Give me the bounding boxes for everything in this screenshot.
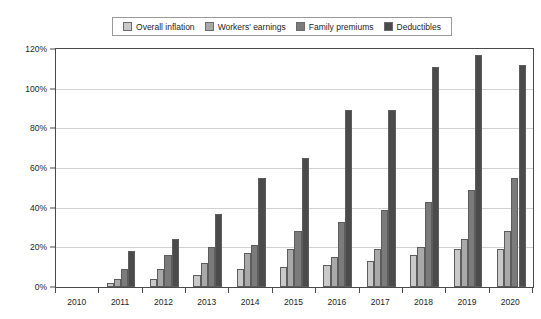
x-axis-tick-mark [142, 288, 143, 293]
legend-item-label: Family premiums [309, 22, 374, 32]
bar[interactable] [511, 178, 518, 287]
bar-group [497, 49, 526, 287]
x-axis-tick-label: 2018 [414, 297, 433, 307]
legend-item-label: Workers' earnings [218, 22, 286, 32]
bar[interactable] [497, 249, 504, 287]
y-axis-tick-label: 40% [30, 203, 47, 212]
bar[interactable] [374, 249, 381, 287]
bar[interactable] [164, 255, 171, 287]
bar[interactable] [425, 202, 432, 287]
bar[interactable] [280, 267, 287, 287]
bar[interactable] [215, 214, 222, 287]
bar-group [367, 49, 396, 287]
bar-group [63, 49, 92, 287]
bar[interactable] [107, 283, 114, 287]
bar[interactable] [345, 110, 352, 287]
bar[interactable] [302, 158, 309, 287]
bar[interactable] [258, 178, 265, 287]
x-axis-tick-mark [185, 288, 186, 293]
legend-item-label: Deductibles [397, 22, 441, 32]
bar[interactable] [172, 239, 179, 287]
y-axis-tick-label: 80% [30, 124, 47, 133]
bar-group [280, 49, 309, 287]
x-axis: 2010201120122013201420152016201720182019… [55, 288, 534, 316]
x-axis-tick-mark [315, 288, 316, 293]
bar[interactable] [201, 263, 208, 287]
bar[interactable] [504, 231, 511, 287]
x-axis-tick-label: 2013 [197, 297, 216, 307]
bar[interactable] [367, 261, 374, 287]
bar[interactable] [208, 247, 215, 287]
x-axis-tick-mark [228, 288, 229, 293]
legend-swatch-icon [205, 22, 214, 31]
x-axis-tick-label: 2017 [371, 297, 390, 307]
bar[interactable] [381, 210, 388, 287]
legend-item[interactable]: Deductibles [384, 22, 441, 32]
legend-swatch-icon [296, 22, 305, 31]
x-axis-tick-label: 2016 [327, 297, 346, 307]
bar[interactable] [388, 110, 395, 287]
bar-group [410, 49, 439, 287]
bar[interactable] [410, 255, 417, 287]
bar[interactable] [468, 190, 475, 287]
legend-item[interactable]: Overall inflation [123, 22, 195, 32]
x-axis-tick-label: 2015 [284, 297, 303, 307]
x-axis-tick-mark [55, 288, 56, 293]
bar[interactable] [454, 249, 461, 287]
legend-item[interactable]: Workers' earnings [205, 22, 286, 32]
bar[interactable] [244, 253, 251, 287]
bar[interactable] [331, 257, 338, 287]
x-axis-tick-mark [445, 288, 446, 293]
legend-item[interactable]: Family premiums [296, 22, 374, 32]
bar[interactable] [193, 275, 200, 287]
bar-group [323, 49, 352, 287]
bar[interactable] [114, 279, 121, 287]
x-axis-tick-label: 2019 [457, 297, 476, 307]
bar[interactable] [338, 222, 345, 287]
bar[interactable] [432, 67, 439, 287]
bar-group [237, 49, 266, 287]
x-axis-tick-mark [272, 288, 273, 293]
bar[interactable] [323, 265, 330, 287]
bar[interactable] [417, 247, 424, 287]
x-axis-tick-label: 2011 [111, 297, 129, 307]
bar[interactable] [157, 269, 164, 287]
x-axis-tick-mark [532, 288, 533, 293]
x-axis-tick-label: 2012 [154, 297, 173, 307]
bar[interactable] [287, 249, 294, 287]
bar[interactable] [128, 251, 135, 287]
x-axis-tick-mark [489, 288, 490, 293]
y-axis-tick-label: 100% [25, 84, 47, 93]
bar[interactable] [237, 269, 244, 287]
legend-swatch-icon [384, 22, 393, 31]
bar[interactable] [519, 65, 526, 287]
y-axis-tick-label: 60% [30, 164, 47, 173]
x-axis-tick-label: 2020 [501, 297, 520, 307]
chart-legend: Overall inflationWorkers' earningsFamily… [112, 17, 452, 36]
bar[interactable] [251, 245, 258, 287]
x-axis-tick-mark [98, 288, 99, 293]
bar[interactable] [121, 269, 128, 287]
legend-item-label: Overall inflation [136, 22, 195, 32]
x-axis-tick-label: 2010 [67, 297, 86, 307]
bar[interactable] [461, 239, 468, 287]
bar[interactable] [475, 55, 482, 287]
y-axis: 0%20%40%60%80%100%120% [0, 48, 55, 288]
bar[interactable] [294, 231, 301, 287]
y-axis-tick-label: 120% [25, 45, 47, 54]
bar[interactable] [150, 279, 157, 287]
x-axis-tick-label: 2014 [241, 297, 260, 307]
bar-group [150, 49, 179, 287]
y-axis-tick-label: 20% [30, 243, 47, 252]
bar-group [193, 49, 222, 287]
x-axis-tick-mark [359, 288, 360, 293]
bar-group [454, 49, 483, 287]
plot-area [55, 48, 534, 288]
bar-series-container [56, 49, 533, 287]
y-axis-tick-label: 0% [35, 283, 47, 292]
legend-swatch-icon [123, 22, 132, 31]
bar-group [107, 49, 136, 287]
x-axis-tick-mark [402, 288, 403, 293]
